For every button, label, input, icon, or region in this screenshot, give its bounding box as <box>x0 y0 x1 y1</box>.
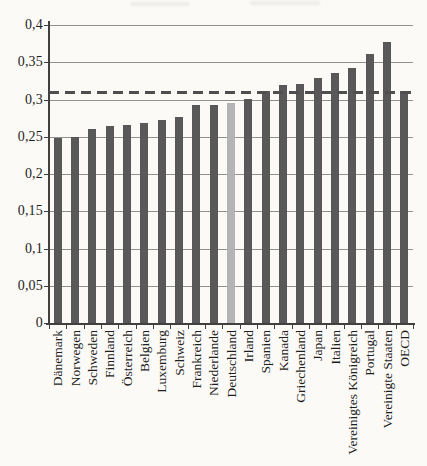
x-axis-tick <box>274 324 275 329</box>
y-axis-tick-label: 0,15 <box>0 203 43 219</box>
y-axis-tick <box>44 174 49 175</box>
chart-bar <box>175 117 183 323</box>
x-axis-category-label: Luxemburg <box>153 330 170 466</box>
chart-bar-highlighted <box>227 103 235 323</box>
x-axis-category-label: Schweiz <box>171 330 188 466</box>
x-axis-tick <box>49 324 50 329</box>
x-axis-category-label: Italien <box>327 330 344 466</box>
chart-bar <box>262 91 270 323</box>
x-axis-category-label: Deutschland <box>223 330 240 466</box>
scanned-chart-page: 00,050,10,150,20,250,30,350,4DänemarkNor… <box>0 0 427 466</box>
y-axis-tick <box>44 211 49 212</box>
chart-bar <box>400 91 408 323</box>
y-axis-tick-label: 0,4 <box>0 17 43 33</box>
x-axis-category-label: OECD <box>396 330 413 466</box>
x-axis-tick <box>326 324 327 329</box>
chart-bar <box>366 54 374 323</box>
x-axis-tick <box>118 324 119 329</box>
y-axis-tick <box>44 25 49 26</box>
chart-bar <box>331 73 339 323</box>
x-axis-tick <box>136 324 137 329</box>
x-axis-category-label: Vereinigtes Königreich <box>344 330 361 466</box>
x-axis-category-label: Kanada <box>275 330 292 466</box>
y-axis-tick <box>44 249 49 250</box>
y-axis-tick <box>44 286 49 287</box>
x-axis-tick <box>309 324 310 329</box>
y-axis-tick <box>44 100 49 101</box>
x-axis-category-label: Japan <box>309 330 326 466</box>
x-axis-category-label: Irland <box>240 330 257 466</box>
x-axis-category-label: Finnland <box>101 330 118 466</box>
y-gridline <box>49 62 413 63</box>
y-axis-tick-label: 0,3 <box>0 92 43 108</box>
x-axis-tick <box>188 324 189 329</box>
x-axis-category-label: Niederlande <box>205 330 222 466</box>
chart-bar <box>244 99 252 323</box>
chart-bar <box>383 42 391 323</box>
x-axis-tick <box>222 324 223 329</box>
x-axis-tick <box>396 324 397 329</box>
x-axis-category-label: Frankreich <box>188 330 205 466</box>
reference-line-oecd-average <box>49 91 413 94</box>
x-axis-tick <box>66 324 67 329</box>
chart-bar <box>296 84 304 323</box>
x-axis-category-label: Griechenland <box>292 330 309 466</box>
x-axis-tick <box>205 324 206 329</box>
x-axis-tick <box>153 324 154 329</box>
x-axis-category-label: Belgien <box>136 330 153 466</box>
x-axis-tick <box>361 324 362 329</box>
y-axis-tick <box>44 62 49 63</box>
x-axis-category-label: Vereinigte Staaten <box>379 330 396 466</box>
chart-bar <box>314 78 322 323</box>
y-axis-tick-label: 0,1 <box>0 241 43 257</box>
chart-bar <box>158 120 166 323</box>
x-axis-tick <box>170 324 171 329</box>
x-axis-category-label: Norwegen <box>67 330 84 466</box>
chart-bar <box>106 126 114 323</box>
x-axis-tick <box>292 324 293 329</box>
y-axis-tick-label: 0,05 <box>0 278 43 294</box>
y-axis-tick-label: 0,35 <box>0 54 43 70</box>
y-axis-tick-label: 0,2 <box>0 166 43 182</box>
x-axis-category-label: Dänemark <box>49 330 66 466</box>
x-axis-tick <box>344 324 345 329</box>
chart-bar <box>348 68 356 323</box>
y-axis-line <box>48 21 50 324</box>
y-axis-tick-label: 0,25 <box>0 129 43 145</box>
x-axis-category-label: Spanien <box>257 330 274 466</box>
chart-bar <box>210 105 218 323</box>
y-gridline <box>49 100 413 101</box>
x-axis-category-label: Österreich <box>119 330 136 466</box>
chart-bar <box>123 125 131 323</box>
x-axis-category-label: Portugal <box>361 330 378 466</box>
x-axis-tick <box>257 324 258 329</box>
y-gridline <box>49 25 413 26</box>
chart-bar <box>140 123 148 323</box>
y-axis-tick <box>44 137 49 138</box>
x-axis-tick <box>101 324 102 329</box>
y-axis-tick-label: 0 <box>0 315 43 331</box>
gini-bar-chart: 00,050,10,150,20,250,30,350,4DänemarkNor… <box>0 0 427 466</box>
x-axis-tick <box>240 324 241 329</box>
chart-bar <box>192 105 200 323</box>
chart-bar <box>88 129 96 323</box>
x-axis-tick <box>413 324 414 329</box>
x-axis-category-label: Schweden <box>84 330 101 466</box>
x-axis-tick <box>378 324 379 329</box>
x-axis-tick <box>84 324 85 329</box>
chart-bar <box>54 138 62 323</box>
chart-bar <box>279 85 287 323</box>
chart-bar <box>71 137 79 323</box>
